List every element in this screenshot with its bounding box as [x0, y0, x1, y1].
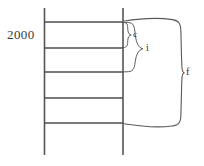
ladder-rails: [45, 8, 124, 155]
brace-label-i: i: [146, 43, 149, 53]
brace-label-f: f: [186, 67, 189, 77]
diagram-svg: [0, 0, 204, 166]
brace-c-path: [124, 23, 132, 48]
ladder-rungs: [45, 22, 124, 123]
year-label: 2000: [7, 28, 35, 41]
diagram-canvas: 2000 c i f: [0, 0, 204, 166]
brace-c: [124, 23, 132, 48]
brace-label-c: c: [133, 30, 137, 39]
